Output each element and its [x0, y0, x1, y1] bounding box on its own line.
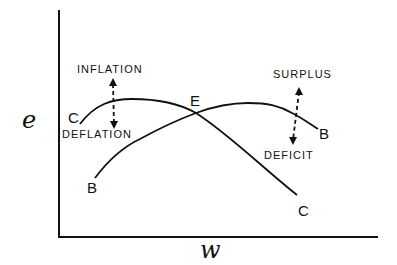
y-axis-label: e: [22, 106, 36, 134]
intersection-label: E: [190, 92, 200, 109]
deflation-label: DEFLATION: [62, 128, 132, 140]
arrow-up-icon: [109, 78, 117, 86]
curve-b-end-label: B: [319, 125, 329, 142]
curve-c-end-label: C: [298, 202, 309, 219]
curve-c-start-label: C: [68, 109, 79, 126]
diagram-canvas: e w C C B B E INFLATION DEFLATION SURPLU…: [0, 0, 397, 265]
x-axis-label: w: [200, 236, 221, 264]
deficit-label: DEFICIT: [264, 149, 314, 161]
inflation-label: INFLATION: [77, 63, 143, 75]
curve-c: [80, 99, 297, 195]
inflation-deflation-arrow: [113, 84, 114, 124]
curve-b: [95, 103, 318, 178]
arrow-up-icon: [295, 87, 303, 95]
arrow-down-icon: [289, 137, 297, 145]
surplus-label: SURPLUS: [273, 68, 332, 80]
curve-b-start-label: B: [87, 179, 97, 196]
